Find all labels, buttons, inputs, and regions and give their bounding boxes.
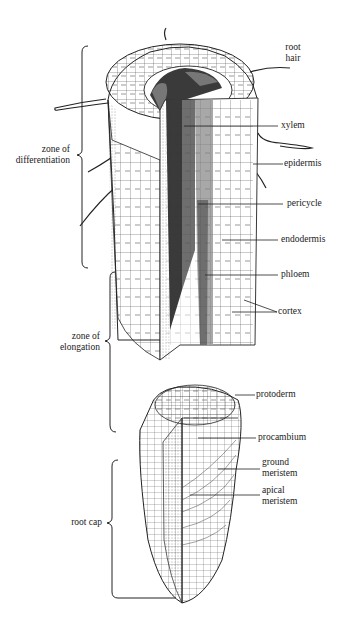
label-apical-meristem: apical meristem: [262, 485, 297, 507]
label-xylem: xylem: [281, 120, 305, 131]
root-tip-diagram: root hair xylem epidermis pericycle endo…: [0, 0, 352, 632]
label-root-hair-line1: root: [275, 42, 311, 53]
label-root-hair: root hair: [275, 42, 311, 64]
label-pericycle: pericycle: [287, 198, 322, 209]
label-epidermis: epidermis: [284, 158, 321, 169]
label-zone-of-differentiation: zone of differentiation: [4, 144, 70, 166]
label-protoderm: protoderm: [256, 389, 296, 400]
label-root-hair-line2: hair: [275, 53, 311, 64]
label-zone-elongation-line1: zone of: [44, 331, 100, 342]
label-zone-elongation-line2: elongation: [44, 342, 100, 353]
label-apical-meristem-line2: meristem: [262, 496, 297, 507]
label-ground-meristem-line1: ground: [262, 457, 297, 468]
label-phloem: phloem: [281, 269, 310, 280]
label-zone-of-elongation: zone of elongation: [44, 331, 100, 353]
label-ground-meristem-line2: meristem: [262, 468, 297, 479]
label-ground-meristem: ground meristem: [262, 457, 297, 479]
label-procambium: procambium: [258, 432, 306, 443]
label-zone-differentiation-line2: differentiation: [4, 155, 70, 166]
label-endodermis: endodermis: [281, 234, 325, 245]
label-cortex: cortex: [278, 306, 302, 317]
label-root-cap: root cap: [50, 517, 102, 528]
label-zone-differentiation-line1: zone of: [4, 144, 70, 155]
label-apical-meristem-line1: apical: [262, 485, 297, 496]
